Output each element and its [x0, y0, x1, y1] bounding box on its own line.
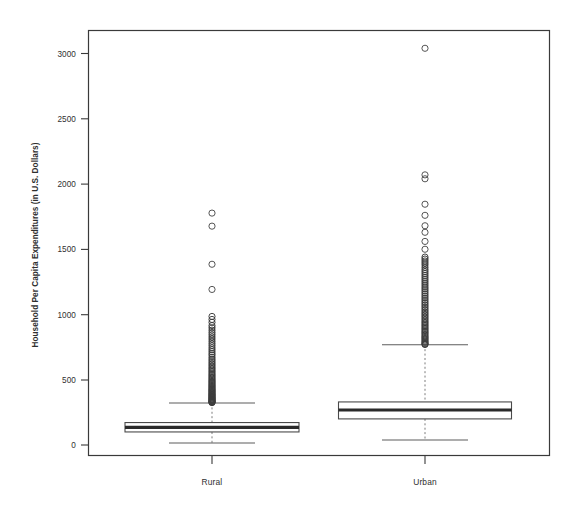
outlier-point [422, 176, 428, 182]
outlier-point [422, 238, 428, 244]
y-tick-label-1000: 1000 [57, 311, 76, 320]
x-tick-label-rural: Rural [202, 477, 223, 487]
boxplot-series-layer [125, 45, 512, 443]
x-axis-ticks [212, 456, 425, 464]
y-axis-ticks [81, 54, 88, 446]
outlier-point [209, 223, 215, 229]
outlier-point [422, 229, 428, 235]
boxplot-canvas: 0 500 1000 1500 2000 2500 3000 Household… [0, 0, 579, 515]
boxplot-figure: 0 500 1000 1500 2000 2500 3000 Household… [0, 0, 579, 515]
outlier-point [422, 212, 428, 218]
outlier-point [422, 201, 428, 207]
y-tick-label-2000: 2000 [57, 180, 76, 189]
outlier-point [422, 45, 428, 51]
outlier-point [422, 223, 428, 229]
y-tick-label-1500: 1500 [57, 245, 76, 254]
y-tick-label-0: 0 [71, 441, 76, 450]
outlier-point [209, 261, 215, 267]
y-tick-label-2500: 2500 [57, 115, 76, 124]
plot-frame [89, 31, 550, 456]
outlier-point [209, 286, 215, 292]
x-tick-label-urban: Urban [413, 477, 437, 487]
outlier-point [209, 210, 215, 216]
boxplot-group-urban [339, 45, 512, 440]
y-tick-label-3000: 3000 [57, 50, 76, 59]
y-tick-label-500: 500 [62, 376, 76, 385]
y-axis-title: Household Per Capita Expenditures (in U.… [31, 142, 40, 347]
y-axis-tick-labels: 0 500 1000 1500 2000 2500 3000 [57, 50, 76, 451]
boxplot-group-rural [125, 210, 299, 443]
outlier-point [422, 246, 428, 252]
